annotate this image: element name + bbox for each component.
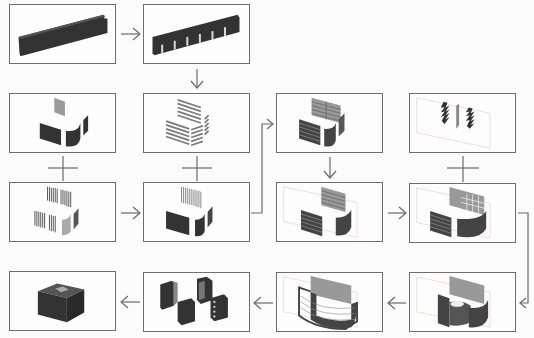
step-s3: Slatted panel sets	[143, 93, 250, 153]
step-s6: Ribs with curved wall panels	[143, 182, 250, 242]
arrow-s6-s7	[251, 119, 273, 213]
curved-wall-icon	[10, 94, 115, 152]
step-s2: Beam with slotted tabs	[143, 4, 250, 64]
vertical-ribs-icon	[10, 183, 115, 241]
step-s4: Curved wall panels with top plate	[9, 93, 116, 153]
arrow-s9-s10	[388, 207, 406, 219]
grid-panels-icon	[277, 183, 382, 241]
step-s8: Joint / connector pieces	[409, 93, 516, 153]
arrow-s10-s11	[518, 213, 528, 308]
plus-s3-s6	[182, 156, 212, 181]
final-unit-icon	[10, 272, 115, 330]
arrow-s5-s6	[121, 207, 140, 219]
curved-shell-icon	[410, 273, 515, 331]
slatted-combined-icon	[277, 94, 382, 152]
step-s9: Panels in construction grid	[276, 182, 383, 242]
arrow-s11-s12	[388, 297, 406, 309]
arrow-s1-s2	[121, 28, 140, 40]
arrow-s12-s13	[254, 297, 273, 309]
step-s13: Modular blocks	[143, 272, 250, 332]
ribs-with-walls-icon	[144, 183, 249, 241]
arrow-s13-s14	[121, 296, 140, 308]
full-shell-icon	[277, 273, 382, 331]
step-s10: Grid with connectors added	[409, 183, 516, 243]
connector-pieces-icon	[410, 94, 515, 152]
slatted-panels-icon	[144, 94, 249, 152]
step-s7: Slatted panels combined	[276, 93, 383, 153]
plus-s4-s5	[48, 156, 78, 181]
step-s5: Vertical rib sets	[9, 182, 116, 242]
step-s14: Final assembled unit	[9, 271, 116, 331]
step-s11: Curved shell assembled	[409, 272, 516, 332]
arrow-s2-s3	[191, 69, 203, 88]
arrow-s7-s9	[324, 157, 336, 178]
step-s12: Full shell assembly	[276, 272, 383, 332]
step-s1: Solid beam	[9, 4, 116, 64]
grid-connectors-icon	[410, 184, 515, 242]
plus-s8-s10	[447, 156, 479, 182]
solid-beam-icon	[10, 5, 115, 63]
modular-blocks-icon	[144, 273, 249, 331]
slotted-beam-icon	[144, 5, 249, 63]
